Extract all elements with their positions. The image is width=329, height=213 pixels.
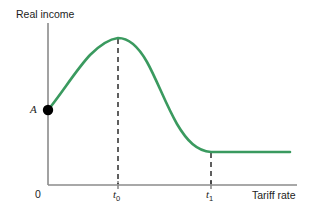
x-tick-label-t0-subscript: 0 <box>116 194 120 203</box>
x-axis-label: Tariff rate <box>252 190 296 201</box>
origin-label: 0 <box>35 189 41 200</box>
real-income-curve <box>48 38 290 152</box>
x-tick-label-t0: t0 <box>113 189 120 203</box>
y-axis-label: Real income <box>16 9 74 20</box>
point-a-marker <box>43 105 53 115</box>
point-a-label: A <box>30 104 37 115</box>
chart-figure: Real income Tariff rate 0 A t0 t1 <box>0 0 329 213</box>
x-tick-label-t1-subscript: 1 <box>209 194 213 203</box>
x-tick-label-t1: t1 <box>206 189 213 203</box>
chart-plot-area <box>0 0 329 213</box>
